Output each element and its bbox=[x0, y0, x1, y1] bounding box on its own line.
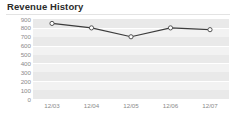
x-tick-label: 12/03 bbox=[44, 102, 59, 109]
data-point-marker bbox=[208, 28, 212, 32]
widget-header: Revenue History bbox=[0, 0, 236, 15]
y-tick-label: 0 bbox=[0, 96, 31, 103]
revenue-history-widget: Revenue History 900800700600500400300200… bbox=[0, 0, 236, 117]
series-markers bbox=[50, 21, 212, 39]
data-point-marker bbox=[129, 35, 133, 39]
page-title: Revenue History bbox=[7, 1, 83, 12]
y-axis: 9008007006005004003002001000 bbox=[0, 19, 31, 99]
y-tick-label: 700 bbox=[0, 33, 31, 40]
y-tick-label: 600 bbox=[0, 42, 31, 49]
y-tick-label: 100 bbox=[0, 87, 31, 94]
data-point-marker bbox=[89, 26, 93, 30]
x-tick-label: 12/04 bbox=[84, 102, 99, 109]
data-point-marker bbox=[168, 26, 172, 30]
x-tick-label: 12/05 bbox=[123, 102, 138, 109]
y-tick-label: 200 bbox=[0, 78, 31, 85]
x-axis: 12/0312/0412/0512/0612/07 bbox=[33, 102, 229, 114]
x-tick-label: 12/07 bbox=[202, 102, 217, 109]
y-tick-label: 500 bbox=[0, 51, 31, 58]
y-tick-label: 900 bbox=[0, 16, 31, 23]
line-chart: 9008007006005004003002001000 12/0312/041… bbox=[0, 15, 236, 117]
revenue-series bbox=[33, 19, 229, 99]
y-tick-label: 800 bbox=[0, 24, 31, 31]
y-tick-label: 400 bbox=[0, 60, 31, 67]
plot-area bbox=[33, 19, 229, 99]
x-tick-label: 12/06 bbox=[163, 102, 178, 109]
y-tick-label: 300 bbox=[0, 69, 31, 76]
data-point-marker bbox=[50, 21, 54, 25]
